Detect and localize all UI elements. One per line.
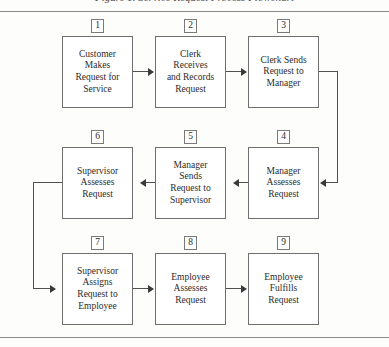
edge-1-to-2-arrowhead [148, 68, 154, 76]
node-label-5: Manager Sends Request to Supervisor [168, 160, 213, 206]
node-badge-1: 1 [91, 19, 104, 33]
node-box-1[interactable]: Customer Makes Request for Service [62, 36, 133, 108]
node-box-4[interactable]: Manager Assesses Request [248, 147, 319, 219]
edge-5-to-6-arrowhead [140, 179, 146, 187]
edge-7-to-8-arrowhead [148, 285, 154, 293]
node-badge-4: 4 [277, 130, 290, 144]
node-label-6: Supervisor Assesses Request [75, 166, 120, 201]
node-label-1: Customer Makes Request for Service [73, 49, 121, 95]
node-label-2: Clerk Receives and Records Request [165, 49, 216, 95]
top-rule [0, 11, 389, 12]
node-badge-8: 8 [184, 236, 197, 250]
edge-3-to-4-arrowhead [320, 179, 326, 187]
edge-6-to-7-line-down [33, 182, 34, 288]
edge-6-to-7-line-in [33, 288, 51, 289]
node-label-7: Supervisor Assigns Request to Employee [75, 266, 120, 312]
edge-5-to-6-line [146, 182, 155, 183]
clipped-page-heading: Figure 1. Service Request Process Flowch… [0, 0, 389, 5]
edge-8-to-9-line [226, 288, 242, 289]
node-box-8[interactable]: Employee Assesses Request [155, 253, 226, 325]
edge-6-to-7-arrowhead [50, 285, 56, 293]
node-label-8: Employee Assesses Request [169, 272, 212, 307]
flowchart-page: Figure 1. Service Request Process Flowch… [0, 0, 389, 347]
node-badge-2: 2 [184, 19, 197, 33]
node-box-7[interactable]: Supervisor Assigns Request to Employee [62, 253, 133, 325]
node-box-2[interactable]: Clerk Receives and Records Request [155, 36, 226, 108]
node-label-9: Employee Fulfills Request [262, 272, 305, 307]
edge-1-to-2-line [133, 71, 149, 72]
edge-6-to-7-line-out [33, 182, 62, 183]
edge-4-to-5-line [239, 182, 248, 183]
node-box-6[interactable]: Supervisor Assesses Request [62, 147, 133, 219]
edge-4-to-5-arrowhead [233, 179, 239, 187]
edge-3-to-4-line-out [319, 71, 338, 72]
node-label-3: Clerk Sends Request to Manager [258, 55, 308, 90]
node-badge-6: 6 [91, 130, 104, 144]
edge-2-to-3-line [226, 71, 242, 72]
edge-3-to-4-line-in [326, 182, 338, 183]
bottom-rule [0, 337, 389, 338]
node-box-5[interactable]: Manager Sends Request to Supervisor [155, 147, 226, 219]
node-box-9[interactable]: Employee Fulfills Request [248, 253, 319, 325]
edge-8-to-9-arrowhead [241, 285, 247, 293]
edge-2-to-3-arrowhead [241, 68, 247, 76]
node-label-4: Manager Assesses Request [265, 166, 303, 201]
edge-3-to-4-line-down [337, 71, 338, 182]
edge-7-to-8-line [133, 288, 149, 289]
node-badge-7: 7 [91, 236, 104, 250]
node-badge-9: 9 [277, 236, 290, 250]
node-box-3[interactable]: Clerk Sends Request to Manager [248, 36, 319, 108]
node-badge-3: 3 [277, 19, 290, 33]
node-badge-5: 5 [184, 130, 197, 144]
